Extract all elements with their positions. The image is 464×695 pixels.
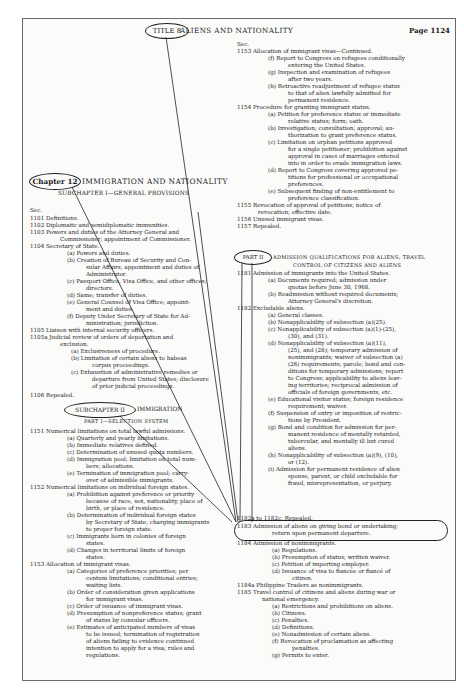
part-2-oval-label: PART II [234, 250, 272, 265]
page-number: Page 1124 [409, 26, 450, 35]
subchapter-2-oval-label: SUBCHAPTER II [64, 402, 136, 418]
chapter-oval-label: Chapter 12 [29, 173, 81, 190]
toc-entry: (d) Issuance of visa to fiancée or fianc… [272, 568, 390, 575]
toc-entry: (g) Permits to enter. [272, 652, 329, 659]
toc-entry: fraud, misrepresentation, or perjury. [288, 480, 392, 487]
subchapter-2-title: IMMIGRATION [137, 406, 182, 412]
part-2-title: ADMISSION QUALIFICATIONS FOR ALIENS; TRA… [273, 253, 425, 269]
toc-entry: (d) Changes in territorial limits of for… [67, 547, 185, 554]
part-1-heading: PART I—SELECTION SYSTEM [84, 418, 169, 424]
chapter-title: IMMIGRATION AND NATIONALITY [82, 177, 228, 186]
toc-entry: 1182a to 1182c. Repealed. [237, 515, 313, 522]
toc-entry: (f) Revocation of proclamation as affect… [272, 638, 393, 645]
toc-entry: Sec. [30, 207, 42, 214]
toc-entry: 1105a Judicial review of orders of depor… [30, 334, 173, 341]
toc-entry: 1106 Repealed. [30, 392, 74, 399]
toc-entry: return upon permanent departure. [272, 530, 371, 537]
toc-entry: of prior judicial proceedings. [92, 383, 174, 390]
toc-entry: 1157 Repealed. [237, 223, 281, 230]
header-title: ALIENS AND NATIONALITY [180, 26, 293, 35]
subchapter-1-heading: SUBCHAPTER I—GENERAL PROVISIONS [58, 190, 189, 196]
part-2-title-line-2: CONTROL OF CITIZENS AND ALIENS [273, 261, 425, 269]
toc-entry: regulations. [86, 652, 120, 659]
part-2-title-line-1: ADMISSION QUALIFICATIONS FOR ALIENS; TRA… [273, 253, 425, 261]
toc-entry: (c) Immigrants born in colonies of forei… [67, 533, 186, 540]
